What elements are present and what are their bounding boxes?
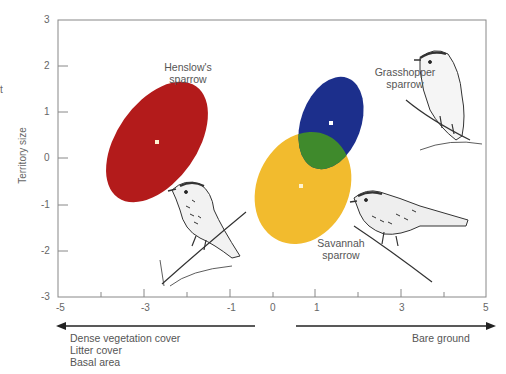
- left-gradient-labels: Dense vegetation cover Litter cover Basa…: [70, 332, 180, 368]
- x-tick-label: 0: [270, 302, 276, 313]
- right-gradient-arrow: [296, 322, 496, 330]
- y-axis-label: Territory size: [17, 114, 28, 198]
- y-tick-label: -1: [41, 199, 50, 210]
- x-ticks: [101, 289, 444, 297]
- y-tick-label: -3: [41, 291, 50, 302]
- y-tick-label: -2: [41, 245, 50, 256]
- y-tick-label: 3: [44, 14, 50, 25]
- x-tick-label: -5: [56, 302, 65, 313]
- grasshopper-sparrow-label: Grasshopper sparrow: [364, 66, 446, 90]
- henslows-sparrow-label: Henslow's sparrow: [148, 61, 228, 85]
- y-tick-label: 2: [44, 60, 50, 71]
- savannah-sparrow-label: Savannah sparrow: [306, 237, 376, 261]
- x-tick-label: -3: [141, 302, 150, 313]
- y-ticks: [58, 66, 68, 251]
- grasshopper-center-marker: [329, 121, 333, 125]
- x-tick-label: -1: [227, 302, 236, 313]
- savannah-center-marker: [299, 184, 303, 188]
- x-tick-label: 1: [314, 302, 320, 313]
- henslows-sparrow-illustration-icon: [160, 182, 246, 286]
- y-tick-label: 0: [44, 152, 50, 163]
- x-tick-label: 3: [399, 302, 405, 313]
- left-gradient-arrow: [56, 322, 255, 330]
- cropped-text-fragment: t: [0, 84, 3, 95]
- bare-ground-label: Bare ground: [412, 332, 470, 344]
- henslows-center-marker: [155, 140, 159, 144]
- y-tick-label: 1: [44, 106, 50, 117]
- niche-plot: [0, 0, 506, 374]
- x-tick-label: 5: [483, 302, 489, 313]
